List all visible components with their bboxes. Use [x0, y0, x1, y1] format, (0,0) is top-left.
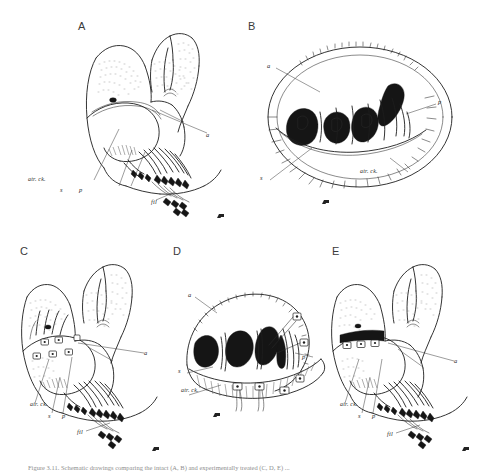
panel-b-label-atr-ck: atr. ck.: [360, 168, 378, 174]
panel-c-septum-hatching: [43, 378, 67, 389]
panel-e-label-atr-ck: atr. ck.: [340, 401, 358, 407]
panel-c: C: [0, 235, 180, 463]
panel-letter-c: C: [20, 245, 28, 257]
panel-a-label-p: p: [79, 186, 82, 193]
panel-a-shading-band: [92, 101, 161, 119]
panel-c-label-s: s: [48, 412, 51, 419]
panel-b-label-a: a: [267, 62, 270, 69]
panel-e-outlines: [332, 265, 467, 422]
electrode-marker[interactable]: [74, 335, 80, 341]
panel-letter-e: E: [332, 245, 340, 257]
panel-a-label-atr-ck: atr. ck.: [28, 176, 46, 182]
panel-d-label-p: p: [302, 353, 305, 360]
panel-letter-b: B: [248, 20, 256, 32]
panel-c-marker-spot: [45, 325, 51, 329]
panel-d-label-atr-ck: atr. ck.: [181, 387, 199, 393]
panel-a-label-s: s: [60, 186, 63, 193]
panel-e: E: [310, 235, 492, 463]
panel-c-drawing: [0, 235, 180, 463]
panel-c-stipple: [29, 275, 127, 378]
panel-b-label-p: p: [438, 98, 441, 105]
panel-b-drawing: [240, 0, 492, 238]
panel-b: B: [240, 0, 492, 238]
panel-e-label-fil: fil: [387, 430, 393, 437]
panel-c-label-fil: fil: [77, 428, 83, 435]
panel-d-tissue-mass: [194, 327, 299, 371]
panel-b-label-s: s: [260, 174, 263, 181]
panel-c-bristles: [30, 310, 68, 339]
panel-b-dorsal-cilia: [300, 42, 418, 70]
panel-a-marker-spot: [110, 98, 117, 103]
panel-a-label-fil: fil: [151, 198, 157, 205]
panel-e-label-s: s: [358, 412, 361, 419]
panel-e-label-a: a: [454, 357, 457, 364]
panel-a-leader-lines: [94, 110, 207, 200]
panel-c-filaments: [64, 381, 124, 449]
panel-c-label-atr-ck: atr. ck.: [30, 401, 48, 407]
panel-c-electrodes: [33, 335, 80, 359]
figure-caption: Figure 3.11. Schematic drawings comparin…: [28, 463, 468, 472]
panel-d-label-a: a: [188, 291, 191, 298]
panel-e-marker-spot: [355, 324, 361, 328]
panel-e-stipple: [339, 275, 437, 378]
panel-b-tissue-mass: [286, 84, 410, 146]
panel-a: A: [0, 0, 246, 238]
panel-a-filaments: [124, 148, 191, 217]
panel-e-filaments: [374, 381, 434, 449]
panel-a-label-a: a: [206, 131, 209, 138]
panel-e-drawing: [310, 235, 492, 463]
panel-e-septum-hatching: [353, 378, 377, 389]
panel-c-label-p: p: [62, 412, 65, 419]
panel-a-drawing: [0, 0, 246, 238]
figure-plate: A: [0, 0, 492, 476]
panel-c-label-a: a: [144, 349, 147, 356]
panel-letter-a: A: [78, 20, 86, 32]
panel-d-label-s: s: [178, 367, 181, 374]
panel-e-label-p: p: [372, 412, 375, 419]
panel-letter-d: D: [173, 245, 181, 257]
